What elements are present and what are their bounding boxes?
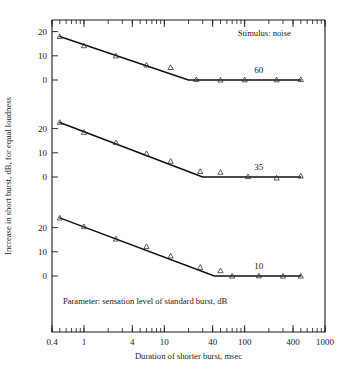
y-tick-label-panel-10-10: 10 [38, 247, 48, 257]
curve-panel-35 [60, 123, 301, 177]
data-point-panel-10 [198, 265, 203, 270]
plot-frame [52, 20, 325, 332]
series-label-panel-35: 35 [254, 162, 264, 172]
y-tick-label-panel-35-20: 20 [38, 124, 48, 134]
y-tick-label-panel-10-20: 20 [38, 223, 48, 233]
x-axis-title: Duration of shorter burst, msec [135, 351, 242, 361]
parameter-note: Parameter: sensation level of standard b… [63, 296, 228, 306]
y-tick-label-panel-60-20: 20 [38, 27, 48, 37]
x-tick-label-400: 400 [286, 337, 300, 347]
data-point-panel-35 [218, 170, 223, 175]
data-point-panel-35 [198, 169, 203, 174]
series-label-panel-60: 60 [254, 65, 264, 75]
data-point-panel-60 [168, 65, 173, 70]
series-label-panel-10: 10 [254, 261, 264, 271]
curve-panel-10 [60, 218, 301, 276]
x-tick-label-1000: 1000 [316, 337, 335, 347]
y-tick-label-panel-35-10: 10 [38, 148, 48, 158]
y-axis-title: Increase in short burst, dB, for equal l… [3, 96, 13, 254]
y-tick-label-panel-10-0: 0 [43, 271, 48, 281]
x-tick-label-1: 1 [82, 337, 87, 347]
x-tick-label-10: 10 [160, 337, 170, 347]
data-point-panel-10 [144, 244, 149, 249]
data-point-panel-10 [168, 253, 173, 258]
x-tick-label-0.4: 0.4 [46, 337, 58, 347]
data-point-panel-10 [218, 268, 223, 273]
curve-panel-60 [60, 36, 301, 80]
x-tick-label-100: 100 [238, 337, 252, 347]
data-point-panel-35 [168, 159, 173, 164]
figure-container: 0.41410401004001000Duration of shorter b… [0, 0, 349, 375]
x-tick-label-40: 40 [208, 337, 218, 347]
stimulus-note: Stimulus: noise [238, 28, 291, 38]
chart-canvas: 0.41410401004001000Duration of shorter b… [0, 0, 349, 375]
y-tick-label-panel-60-0: 0 [43, 75, 48, 85]
x-tick-label-4: 4 [130, 337, 135, 347]
y-tick-label-panel-60-10: 10 [38, 51, 48, 61]
y-tick-label-panel-35-0: 0 [43, 172, 48, 182]
